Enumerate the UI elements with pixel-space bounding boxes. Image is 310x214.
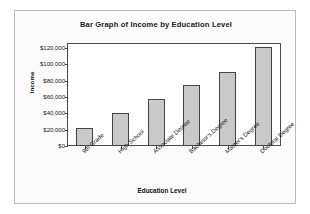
y-axis-tick-label: $80,000	[27, 78, 65, 84]
bar	[148, 99, 165, 146]
y-axis-tick-label: $100,000	[27, 61, 65, 67]
y-axis-tick-label: $0	[27, 143, 65, 149]
x-axis-title: Education Level	[55, 187, 269, 194]
x-axis-category-labels: 9th GradeHigh SchoolAssociate DegreeBach…	[67, 150, 297, 192]
bar	[219, 72, 236, 146]
y-axis-tick-label: $20,000	[27, 127, 65, 133]
y-axis-tick-label: $120,000	[27, 45, 65, 51]
y-axis-ticks: $0$20,000$40,000$60,000$80,000$100,000$1…	[23, 43, 65, 146]
chart-figure: Bar Graph of Income by Education Level I…	[14, 10, 296, 204]
y-axis-tick-label: $40,000	[27, 110, 65, 116]
chart-title: Bar Graph of Income by Education Level	[15, 20, 297, 29]
bar	[183, 85, 200, 146]
bar	[255, 47, 272, 146]
y-axis-tick-label: $60,000	[27, 94, 65, 100]
